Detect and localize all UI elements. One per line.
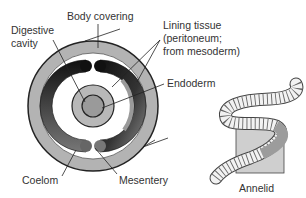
digestive-cavity xyxy=(82,95,104,117)
label-annelid: Annelid xyxy=(239,182,274,195)
label-endoderm: Endoderm xyxy=(167,77,215,90)
label-coelom: Coelom xyxy=(22,174,58,187)
label-body-covering: Body covering xyxy=(67,10,134,23)
coelomate-diagram: Body covering Digestive cavity Lining ti… xyxy=(0,0,306,198)
label-lining-tissue-2: (peritoneum; xyxy=(163,32,222,45)
annelid-illustration xyxy=(216,84,297,178)
label-lining-tissue-1: Lining tissue xyxy=(163,19,221,32)
label-digestive-cavity-1: Digestive xyxy=(11,24,54,37)
label-lining-tissue-3: from mesoderm) xyxy=(163,45,240,58)
label-mesentery: Mesentery xyxy=(119,174,168,187)
label-digestive-cavity-2: cavity xyxy=(11,37,38,50)
